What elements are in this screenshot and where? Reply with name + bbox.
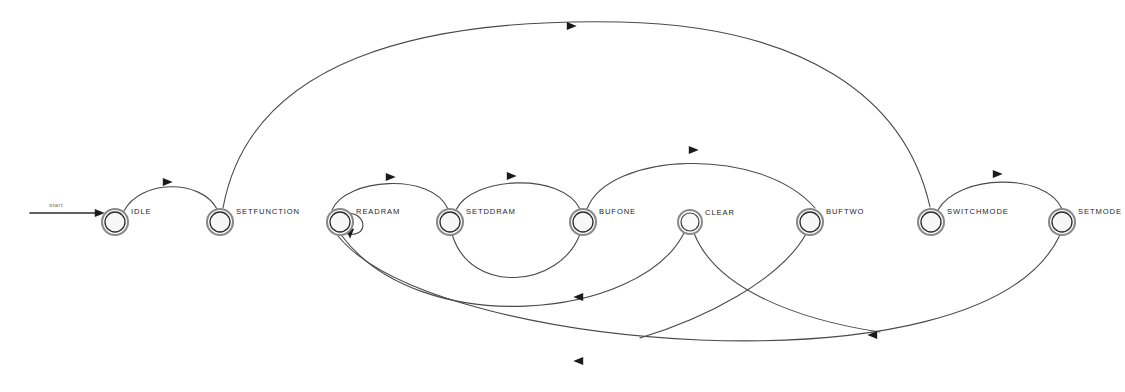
state-inner-ring (105, 212, 125, 232)
state-inner-ring (681, 213, 699, 231)
arrowhead-t-bufone-buftwo (689, 146, 699, 154)
transition-t-clear-readram (342, 233, 684, 306)
state-inner-ring (210, 212, 230, 232)
transition-t-clear-buftwo-down (694, 233, 880, 332)
state-label-setddram: SETDDRAM (466, 207, 516, 216)
transition-t-buftwo-down (640, 234, 806, 338)
state-label-setfunction: SETFUNCTION (236, 207, 300, 216)
state-node-buftwo[interactable] (797, 209, 823, 235)
transition-t-setmode-readram (338, 235, 1060, 341)
state-inner-ring (921, 212, 941, 232)
transition-t-switchmode-setmode (938, 182, 1062, 210)
state-inner-ring (1052, 212, 1072, 232)
state-label-setmode: SETMODE (1078, 207, 1122, 216)
transition-t-bufone-setddram (452, 234, 580, 278)
arrowheads-layer (95, 22, 1003, 365)
state-machine-diagram: IDLESETFUNCTIONREADRAMSETDDRAMBUFONECLEA… (0, 0, 1125, 392)
arrowhead-t-switchmode-setmode (993, 170, 1003, 178)
state-label-buftwo: BUFTWO (826, 207, 864, 216)
state-label-bufone: BUFONE (599, 207, 636, 216)
state-node-idle[interactable] (102, 209, 128, 235)
state-node-bufone[interactable] (570, 209, 596, 235)
state-node-setddram[interactable] (437, 209, 463, 235)
fsm-canvas: IDLESETFUNCTIONREADRAMSETDDRAMBUFONECLEA… (0, 0, 1125, 392)
start-label: start (49, 201, 63, 208)
state-label-switchmode: SWITCHMODE (947, 207, 1009, 216)
arrowhead-t-setfunction-switchmode (567, 22, 577, 30)
arrowhead-t-readram-setddram (386, 173, 396, 181)
state-label-clear: CLEAR (705, 208, 735, 217)
state-label-readram: READRAM (356, 207, 400, 216)
state-node-setmode[interactable] (1049, 209, 1075, 235)
state-label-idle: IDLE (131, 207, 151, 216)
edges-layer (30, 22, 1062, 341)
state-inner-ring (330, 212, 350, 232)
state-node-switchmode[interactable] (918, 209, 944, 235)
state-node-clear[interactable] (678, 210, 702, 234)
transition-t-bufone-buftwo (587, 163, 815, 209)
transition-t-setddram-bufone (456, 183, 580, 210)
arrowhead-t-clear-readram (573, 357, 583, 365)
state-inner-ring (800, 212, 820, 232)
state-node-setfunction[interactable] (207, 209, 233, 235)
state-node-readram[interactable] (327, 209, 353, 235)
arrowhead-t-idle-setfunction (163, 178, 173, 186)
transition-t-setfunction-switchmode (223, 22, 930, 208)
state-inner-ring (440, 212, 460, 232)
state-inner-ring (573, 212, 593, 232)
arrowhead-t-setddram-bufone (507, 172, 517, 180)
